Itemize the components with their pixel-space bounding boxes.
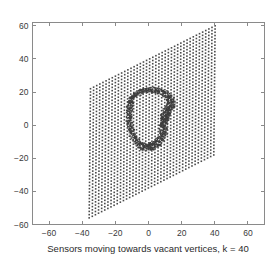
y-tick-label: 0 <box>24 120 29 130</box>
x-tick-label: 40 <box>210 228 220 238</box>
y-tick-label: −60 <box>14 220 29 230</box>
x-tick-label: 0 <box>146 228 151 238</box>
y-tick-label: −40 <box>14 186 29 196</box>
x-tick-label: −40 <box>75 228 90 238</box>
figure-container: −60−40−200204060 −60−40−200204060 Sensor… <box>0 0 280 262</box>
y-tick-label: −20 <box>14 153 29 163</box>
scatter-plot: −60−40−200204060 −60−40−200204060 Sensor… <box>0 0 280 262</box>
x-tick-label: −60 <box>42 228 57 238</box>
y-tick-label: 60 <box>19 21 29 31</box>
x-tick-label: 20 <box>177 228 187 238</box>
plot-caption: Sensors moving towards vacant vertices, … <box>47 243 248 254</box>
x-tick-label: 60 <box>243 228 253 238</box>
y-tick-label: 20 <box>19 87 29 97</box>
y-tick-label: 40 <box>19 54 29 64</box>
x-tick-label: −20 <box>108 228 123 238</box>
